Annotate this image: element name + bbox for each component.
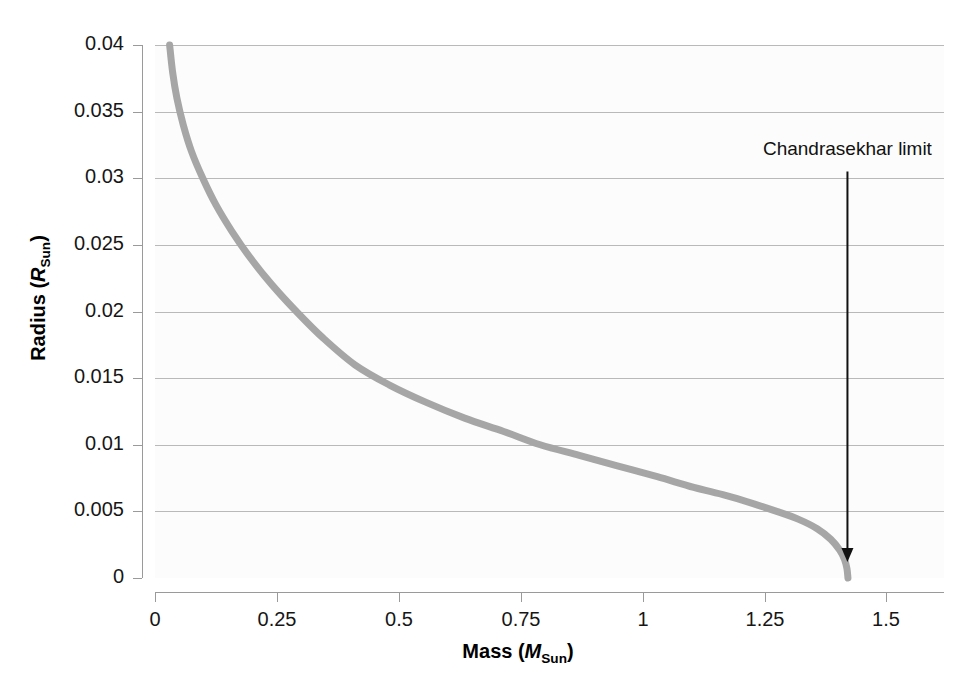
y-axis-title-unit: (RSun) bbox=[27, 235, 49, 294]
x-axis-tick bbox=[399, 592, 400, 602]
y-axis-tick bbox=[133, 312, 142, 313]
y-axis-tick-label: 0.01 bbox=[0, 432, 124, 455]
x-axis-tick-label: 1.25 bbox=[746, 608, 785, 631]
x-axis-subscript: Sun bbox=[541, 651, 567, 666]
y-axis-tick-label: 0.035 bbox=[0, 99, 124, 122]
x-axis-title: Mass (MSun) bbox=[0, 640, 976, 666]
y-axis-subscript: Sun bbox=[38, 242, 53, 268]
y-axis-tick-label: 0.005 bbox=[0, 498, 124, 521]
x-axis-symbol: M bbox=[525, 640, 542, 662]
x-axis-tick bbox=[886, 592, 887, 602]
x-axis-tick bbox=[643, 592, 644, 602]
x-axis-title-text: Mass bbox=[462, 640, 512, 662]
y-axis-tick-label: 0 bbox=[0, 565, 124, 588]
y-axis-tick-label: 0.025 bbox=[0, 232, 124, 255]
y-axis-tick bbox=[133, 45, 142, 46]
x-axis-tick-label: 0.25 bbox=[258, 608, 297, 631]
y-axis-tick bbox=[133, 445, 142, 446]
x-axis-tick-label: 0.75 bbox=[502, 608, 541, 631]
y-axis-tick bbox=[133, 511, 142, 512]
gridline bbox=[155, 445, 944, 446]
y-axis-tick-label: 0.015 bbox=[0, 365, 124, 388]
chandrasekhar-limit-label: Chandrasekhar limit bbox=[763, 138, 932, 160]
y-axis-tick bbox=[133, 178, 142, 179]
x-axis-tick-label: 0.5 bbox=[385, 608, 413, 631]
gridline bbox=[155, 378, 944, 379]
mass-radius-chart-figure: 00.0050.010.0150.020.0250.030.0350.04 00… bbox=[0, 0, 976, 697]
y-axis-tick bbox=[133, 578, 142, 579]
x-axis-tick bbox=[277, 592, 278, 602]
x-axis-tick-label: 0 bbox=[149, 608, 160, 631]
gridline bbox=[155, 511, 944, 512]
gridline bbox=[155, 178, 944, 179]
x-axis-tick-label: 1.5 bbox=[872, 608, 900, 631]
gridline bbox=[155, 45, 944, 46]
x-axis-line bbox=[155, 592, 944, 593]
y-axis-line bbox=[142, 45, 143, 578]
x-axis-tick bbox=[521, 592, 522, 602]
x-axis-tick bbox=[155, 592, 156, 602]
y-axis-tick bbox=[133, 112, 142, 113]
gridline bbox=[155, 312, 944, 313]
y-axis-title-text: Radius bbox=[27, 294, 49, 361]
y-axis-tick bbox=[133, 378, 142, 379]
x-axis-tick bbox=[765, 592, 766, 602]
y-axis-tick-label: 0.03 bbox=[0, 165, 124, 188]
y-axis-tick-label: 0.04 bbox=[0, 32, 124, 55]
y-axis-title: Radius (RSun) bbox=[27, 138, 53, 458]
y-axis-tick bbox=[133, 245, 142, 246]
y-axis-symbol: R bbox=[27, 268, 49, 282]
x-axis-title-unit: (MSun) bbox=[512, 640, 573, 662]
x-axis-tick-label: 1 bbox=[637, 608, 648, 631]
gridline bbox=[155, 112, 944, 113]
gridline bbox=[155, 245, 944, 246]
y-axis-tick-label: 0.02 bbox=[0, 299, 124, 322]
